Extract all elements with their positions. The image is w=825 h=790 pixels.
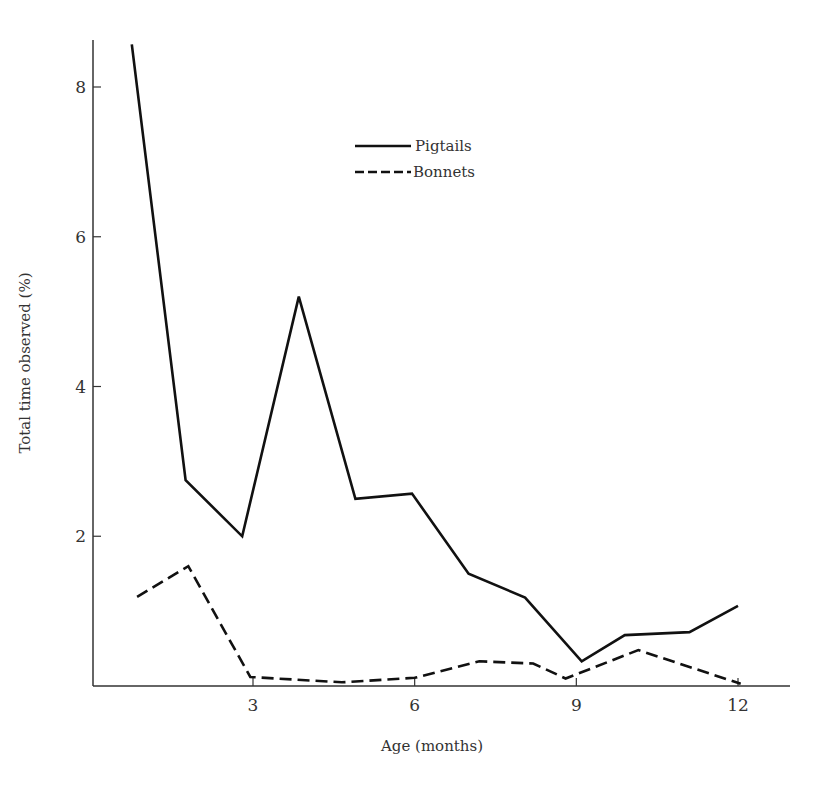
legend-label: Pigtails [415,137,472,155]
x-tick-label: 9 [571,695,582,715]
y-ticks: 2468 [75,77,101,546]
y-tick-label: 4 [75,377,86,397]
x-ticks: 36912 [248,678,749,715]
series-line-bonnets [137,566,741,684]
y-tick-label: 6 [75,227,86,247]
legend: Pigtails Bonnets [355,137,475,181]
x-tick-label: 12 [727,695,749,715]
x-tick-label: 3 [248,695,259,715]
y-tick-label: 2 [75,526,86,546]
legend-item-bonnets: Bonnets [355,163,475,181]
y-tick-label: 8 [75,77,86,97]
y-axis-title: Total time observed (%) [16,272,34,453]
x-axis-title: Age (months) [380,737,483,755]
line-chart: 2468 36912 Pigtails Bonnets Age (months)… [0,0,825,790]
x-tick-label: 6 [409,695,420,715]
legend-item-pigtails: Pigtails [355,137,472,155]
legend-label: Bonnets [413,163,475,181]
